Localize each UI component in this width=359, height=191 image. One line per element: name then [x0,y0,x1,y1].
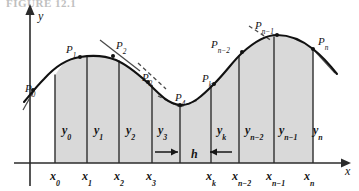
ordinate-label-y2: y2 [126,124,135,136]
curve-point-label-base: P [142,71,149,83]
y-axis-label: y [38,10,43,22]
ordinate-label-subscript: 0 [67,133,71,142]
abscissa-label-x1: x1 [82,170,92,182]
point-marker-Pn-2 [240,50,244,54]
point-marker-P1 [78,55,82,59]
abscissa-label-subscript: 2 [120,179,124,188]
curve-point-label-subscript: 2 [123,48,127,56]
curve-point-label-Pn-2: Pn−2 [211,39,230,50]
curve-point-label-subscript: k [209,81,212,89]
curve-point-label-base: P [66,43,73,55]
ordinate-label-y1: y1 [94,124,103,136]
curve-point-label-P0: P0 [25,83,35,94]
curve-point-label-base: P [255,19,262,31]
curve-point-label-base: P [202,72,209,84]
curve-point-label-P1: P1 [66,44,76,55]
figure-canvas: FIGURE 12.1 P0P1P2P3P4PkPn−2Pn−1Pn y0y1y… [0,0,359,191]
curve-point-label-base: P [318,35,325,47]
point-marker-P2 [111,54,115,58]
abscissa-label-subscript: 3 [152,179,156,188]
x-axis-label: x [345,165,350,177]
ordinate-label-subscript: 1 [99,133,103,142]
abscissa-label-subscript: n [310,179,314,188]
curve-point-label-P2: P2 [116,40,126,51]
abscissa-label-subscript: k [212,179,216,188]
abscissa-label-xn: xn [304,170,314,182]
abscissa-label-subscript: 1 [88,179,92,188]
curve-point-label-base: P [175,91,182,103]
ordinate-label-yk: yk [217,124,226,136]
curve-point-label-subscript: 0 [32,91,36,99]
ordinate-label-subscript: k [222,133,226,142]
point-marker-Pn-1 [275,33,279,37]
abscissa-label-xn-2: xn−2 [232,170,251,182]
ordinate-label-y3: y3 [158,124,167,136]
curve-point-label-subscript: 3 [149,80,153,88]
abscissa-label-subscript: n−1 [272,179,285,188]
curve-point-label-P4: P4 [175,92,185,103]
abscissa-label-subscript: n−2 [238,179,251,188]
curve-point-label-subscript: 1 [73,52,77,60]
point-marker-Pn [311,47,315,51]
ordinate-label-subscript: 2 [131,133,135,142]
curve-point-label-P3: P3 [142,72,152,83]
abscissa-label-xk: xk [206,170,216,182]
abscissa-label-x2: x2 [114,170,124,182]
abscissa-label-x0: x0 [50,170,60,182]
curve-point-label-base: P [25,82,32,94]
curve-point-label-subscript: n−2 [218,47,230,55]
curve-point-label-subscript: n [325,44,329,52]
abscissa-label-x3: x3 [146,170,156,182]
abscissa-label-xn-1: xn−1 [266,170,285,182]
ordinate-label-subscript: 3 [163,133,167,142]
curve-point-label-base: P [211,38,218,50]
ordinate-label-y0: y0 [62,124,71,136]
step-width-label: h [191,148,198,160]
ordinate-label-subscript: n [318,133,322,142]
curve-point-label-Pn: Pn [318,36,328,47]
ordinate-label-yn: yn [313,124,323,136]
curve-point-label-base: P [116,39,123,51]
curve-point-label-subscript: 4 [182,100,186,108]
abscissa-label-subscript: 0 [56,179,60,188]
ordinate-label-yn-2: yn−2 [245,124,263,136]
curve-point-label-Pk: Pk [202,73,212,84]
curve-point-label-subscript: n−1 [262,28,274,36]
ordinate-label-subscript: n−1 [284,133,297,142]
ordinate-label-subscript: n−2 [250,133,263,142]
ordinate-label-yn-1: yn−1 [279,124,297,136]
point-marker-Pk [212,82,216,86]
curve-point-label-Pn-1: Pn−1 [255,20,274,31]
